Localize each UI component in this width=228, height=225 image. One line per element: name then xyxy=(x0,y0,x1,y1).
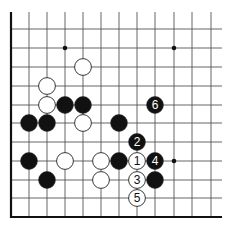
move-number-label: 6 xyxy=(152,98,159,112)
black-stone xyxy=(39,172,56,189)
black-stone-move-2: 2 xyxy=(129,134,146,151)
go-board: 621435 xyxy=(0,0,228,225)
go-diagram: 621435 xyxy=(0,0,228,225)
white-stone-move-5: 5 xyxy=(129,190,146,207)
stone-disc xyxy=(21,115,38,132)
board-background xyxy=(0,0,228,225)
stone-disc xyxy=(39,172,56,189)
black-stone xyxy=(111,115,128,132)
move-number-label: 4 xyxy=(152,154,159,168)
stone-disc xyxy=(93,172,110,189)
white-stone xyxy=(75,59,92,76)
stone-disc xyxy=(111,153,128,170)
star-point xyxy=(172,159,177,164)
black-stone xyxy=(147,172,164,189)
black-stone xyxy=(57,97,74,114)
stone-disc xyxy=(75,59,92,76)
black-stone xyxy=(21,115,38,132)
stone-disc xyxy=(111,115,128,132)
stone-disc xyxy=(21,153,38,170)
stone-disc xyxy=(93,153,110,170)
black-stone xyxy=(111,153,128,170)
white-stone xyxy=(57,153,74,170)
move-number-label: 1 xyxy=(134,154,141,168)
white-stone xyxy=(93,172,110,189)
star-point xyxy=(63,46,68,51)
black-stone xyxy=(21,153,38,170)
stone-disc xyxy=(75,115,92,132)
black-stone xyxy=(75,97,92,114)
black-stone xyxy=(39,115,56,132)
stone-disc xyxy=(39,97,56,114)
stone-disc xyxy=(39,78,56,95)
white-stone xyxy=(39,97,56,114)
move-number-label: 2 xyxy=(134,135,141,149)
stone-disc xyxy=(39,115,56,132)
white-stone xyxy=(75,115,92,132)
white-stone xyxy=(39,78,56,95)
stone-disc xyxy=(57,153,74,170)
move-number-label: 3 xyxy=(134,173,141,187)
stone-disc xyxy=(57,97,74,114)
move-number-label: 5 xyxy=(134,191,141,205)
white-stone-move-3: 3 xyxy=(129,172,146,189)
stone-disc xyxy=(75,97,92,114)
white-stone xyxy=(93,153,110,170)
stone-disc xyxy=(147,172,164,189)
white-stone-move-1: 1 xyxy=(129,153,146,170)
star-point xyxy=(172,46,177,51)
black-stone-move-6: 6 xyxy=(147,97,164,114)
black-stone-move-4: 4 xyxy=(147,153,164,170)
